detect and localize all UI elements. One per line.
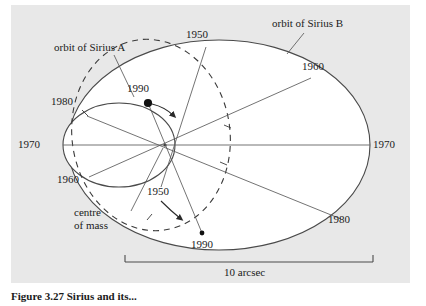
annotation-orbit-of-sirius-b: orbit of Sirius B bbox=[272, 18, 343, 29]
year-label-sirius-b-1990: 1990 bbox=[191, 239, 213, 250]
year-label-sirius-a-1950: 1950 bbox=[147, 186, 169, 197]
year-label-sirius-b-1970: 1970 bbox=[373, 139, 395, 150]
annotation-centre-of-mass-line1: centre bbox=[74, 207, 101, 218]
sirius-a-1990-dot bbox=[144, 99, 152, 107]
scale-bar-label: 10 arcsec bbox=[224, 267, 265, 278]
figure-caption: Figure 3.27 Sirius and its... bbox=[11, 290, 137, 302]
figure-page: orbit of Sirius A orbit of Sirius B cent… bbox=[0, 0, 426, 306]
year-label-sirius-a-1970: 1970 bbox=[18, 139, 40, 150]
year-label-sirius-b-1980: 1980 bbox=[328, 214, 350, 225]
orbit-b-leader-line bbox=[287, 33, 304, 54]
sirius-b-1990-dot bbox=[200, 231, 205, 236]
year-label-sirius-a-1980: 1980 bbox=[51, 96, 73, 107]
annotation-centre-of-mass-line2: of mass bbox=[74, 220, 108, 231]
year-label-sirius-a-1960: 1960 bbox=[57, 174, 79, 185]
year-label-sirius-b-1960: 1960 bbox=[302, 61, 324, 72]
year-label-sirius-a-1990: 1990 bbox=[127, 83, 149, 94]
annotation-orbit-of-sirius-a: orbit of Sirius A bbox=[54, 42, 125, 53]
year-label-sirius-b-1950: 1950 bbox=[186, 29, 208, 40]
scale-bar bbox=[125, 255, 373, 262]
